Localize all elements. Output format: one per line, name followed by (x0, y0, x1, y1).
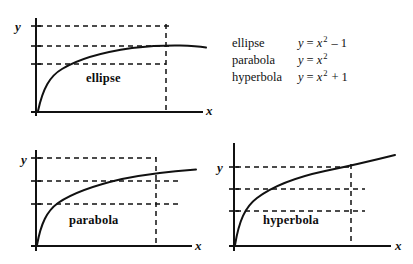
plot-svg-parabola (0, 133, 212, 264)
plot-panel-ellipse: y x ellipse (0, 0, 225, 126)
plot-panel-parabola: y x parabola (0, 133, 212, 264)
legend-tail (328, 53, 334, 67)
legend-equation-ellipse: y=x2– 1 (298, 37, 350, 50)
legend-equals: = (304, 36, 317, 50)
equation-legend: ellipse y=x2– 1 parabola y=x2 hyperbola … (232, 36, 407, 87)
x-axis-label-ellipse: x (206, 104, 213, 117)
plot-svg-ellipse (0, 0, 225, 126)
curve-ellipse (38, 46, 206, 111)
legend-equals: = (304, 70, 317, 84)
legend-row-parabola: parabola y=x2 (232, 53, 407, 70)
legend-lhs: y (298, 70, 304, 84)
y-axis-label-hyperbola: y (217, 161, 223, 174)
x-axis-label-parabola: x (195, 239, 202, 252)
legend-tail: – 1 (328, 36, 350, 50)
legend-equation-hyperbola: y=x2+ 1 (298, 71, 351, 84)
y-axis-label-parabola: y (21, 153, 27, 166)
legend-lhs: y (298, 53, 304, 67)
curve-hyperbola (235, 155, 395, 245)
curve-label-hyperbola: hyperbola (263, 214, 319, 227)
legend-row-hyperbola: hyperbola y=x2+ 1 (232, 70, 407, 87)
legend-equals: = (304, 53, 317, 67)
x-axis-label-hyperbola: x (395, 239, 402, 252)
curve-label-parabola: parabola (69, 214, 119, 227)
legend-tail: + 1 (328, 70, 350, 84)
legend-lhs: y (298, 36, 304, 50)
legend-name-hyperbola: hyperbola (232, 71, 282, 84)
math-figure: y x ellipse ellipse y=x2– (0, 0, 413, 264)
legend-row-ellipse: ellipse y=x2– 1 (232, 36, 407, 53)
plot-panel-hyperbola: y x hyperbola (205, 133, 413, 264)
legend-name-ellipse: ellipse (232, 37, 265, 50)
curve-label-ellipse: ellipse (86, 72, 121, 85)
legend-equation-parabola: y=x2 (298, 54, 334, 67)
legend-name-parabola: parabola (232, 54, 275, 67)
y-axis-label-ellipse: y (15, 20, 21, 33)
plot-svg-hyperbola (205, 133, 413, 264)
